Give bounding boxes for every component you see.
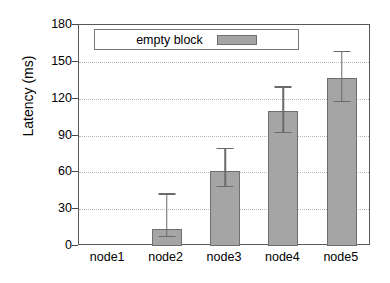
legend: empty block [94,29,299,50]
y-tick-label: 90 [38,128,72,142]
legend-swatch-empty-block [217,35,257,45]
y-tick-label: 30 [38,201,72,215]
y-tick-label: 180 [38,17,72,31]
error-bar-cap-top [217,148,234,150]
y-axis-tick-labels: 0 30 60 90 120 150 180 [36,0,72,283]
error-bar-line [224,148,226,187]
error-bar [327,51,357,103]
bar [327,78,357,246]
y-tick-label: 60 [38,164,72,178]
error-bar-cap-bottom [333,101,350,103]
error-bar-cap-top [158,193,175,195]
gridline [79,136,369,137]
x-tick-label-node1: node1 [90,250,125,264]
chart-figure: Latency (ms) 0 30 60 90 120 150 180 empt… [0,0,390,283]
legend-label-empty-block: empty block [136,33,203,47]
error-bar-cap-top [275,86,292,88]
y-axis-title: Latency (ms) [20,16,36,176]
gridline [79,99,369,100]
gridline [79,62,369,63]
plot-area [78,24,370,245]
error-bar-cap-bottom [217,186,234,188]
y-tickmark [72,245,78,246]
error-bar-line [283,86,285,133]
x-tick-label-node2: node2 [148,250,183,264]
error-bar-cap-bottom [275,132,292,134]
error-bar-line [341,51,343,103]
y-tick-label: 120 [38,91,72,105]
x-tick-label-node5: node5 [323,250,358,264]
error-bar-cap-top [333,51,350,53]
y-tick-label: 0 [38,238,72,252]
x-tick-label-node3: node3 [207,250,242,264]
error-bar-line [166,193,168,237]
error-bar [152,193,182,237]
x-tick-label-node4: node4 [265,250,300,264]
y-tick-label: 150 [38,54,72,68]
error-bar [268,86,298,133]
error-bar [210,148,240,187]
error-bar-cap-bottom [158,236,175,238]
